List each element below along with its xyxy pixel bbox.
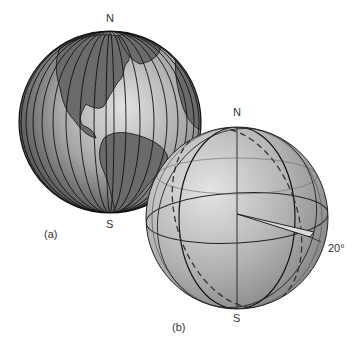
globe-b-north-label: N (233, 107, 241, 118)
globe-b-caption: (b) (172, 322, 185, 333)
globe-a-south-label: S (106, 219, 113, 230)
globe-a-north-label: N (106, 13, 114, 24)
globe-b-south-label: S (233, 313, 240, 324)
diagram-canvas (0, 0, 363, 350)
globe-a-caption: (a) (44, 229, 57, 240)
angle-label: 20° (328, 243, 345, 254)
